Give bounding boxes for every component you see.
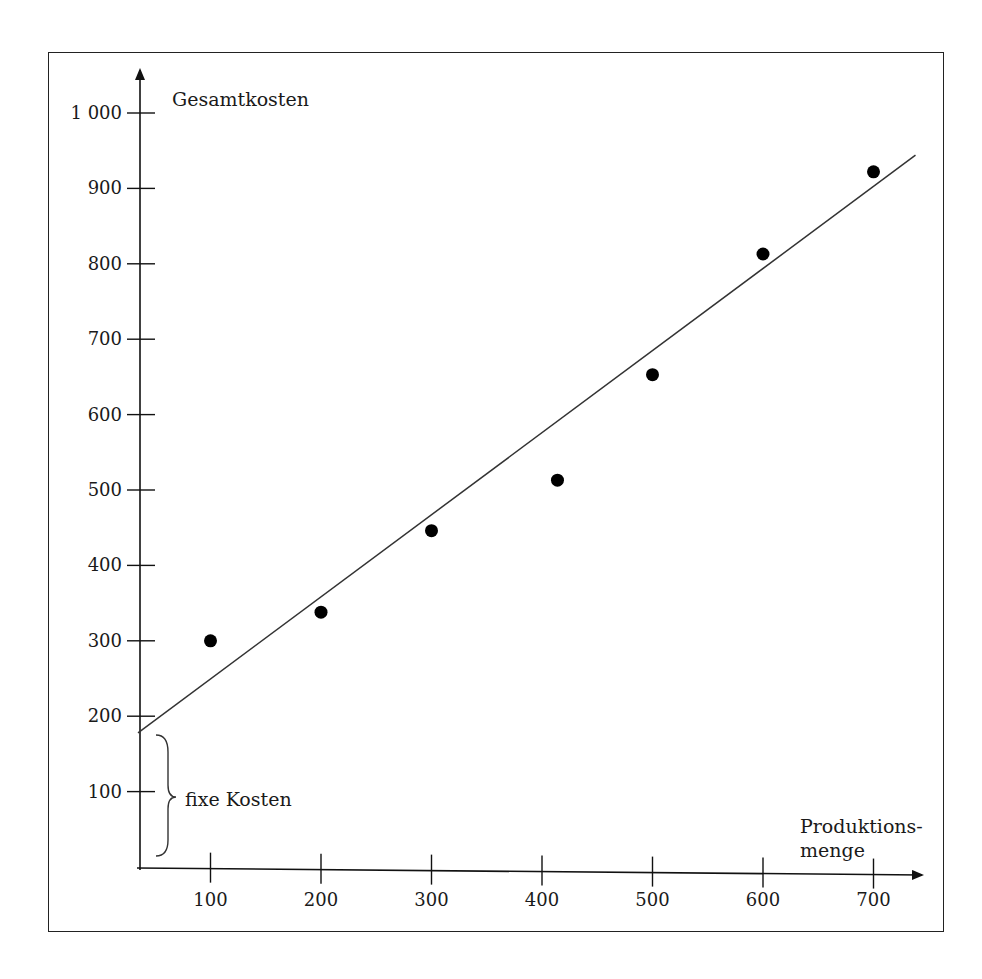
x-tick-label: 700: [856, 889, 890, 910]
fixed-costs-label: fixe Kosten: [185, 788, 292, 810]
data-point: [551, 474, 564, 487]
x-ticks: 100200300400500600700: [193, 853, 890, 910]
y-tick-label: 400: [88, 554, 122, 575]
y-tick-label: 700: [88, 328, 122, 349]
x-axis-title-line1: Produktions-: [800, 815, 923, 837]
y-axis: Gesamtkosten 100200300400500600700800900…: [70, 70, 309, 870]
y-tick-label: 500: [88, 479, 122, 500]
y-tick-label: 600: [88, 404, 122, 425]
y-tick-label: 900: [88, 177, 122, 198]
data-point: [867, 165, 880, 178]
data-point: [757, 247, 770, 260]
y-tick-label: 200: [88, 705, 122, 726]
x-tick-label: 400: [525, 889, 559, 910]
x-axis: Produktions- menge 100200300400500600700: [137, 815, 923, 910]
y-axis-title: Gesamtkosten: [172, 88, 309, 110]
x-tick-label: 300: [414, 889, 448, 910]
x-tick-label: 600: [746, 889, 780, 910]
data-point: [646, 368, 659, 381]
trend-line: [138, 155, 915, 733]
y-ticks: 1002003004005006007008009001 000: [70, 102, 155, 802]
x-axis-title-line2: menge: [800, 839, 865, 861]
x-tick-label: 500: [635, 889, 669, 910]
regression-line: [138, 155, 915, 733]
x-tick-label: 100: [193, 889, 227, 910]
y-tick-label: 100: [88, 781, 122, 802]
cost-scatter-chart: Gesamtkosten 100200300400500600700800900…: [0, 0, 982, 979]
data-point: [204, 634, 217, 647]
data-point: [425, 524, 438, 537]
x-tick-label: 200: [304, 889, 338, 910]
y-tick-label: 1 000: [70, 102, 122, 123]
y-tick-label: 800: [88, 253, 122, 274]
y-tick-label: 300: [88, 630, 122, 651]
data-points: [204, 165, 880, 647]
fixed-costs-brace: fixe Kosten: [156, 735, 292, 856]
data-point: [315, 606, 328, 619]
